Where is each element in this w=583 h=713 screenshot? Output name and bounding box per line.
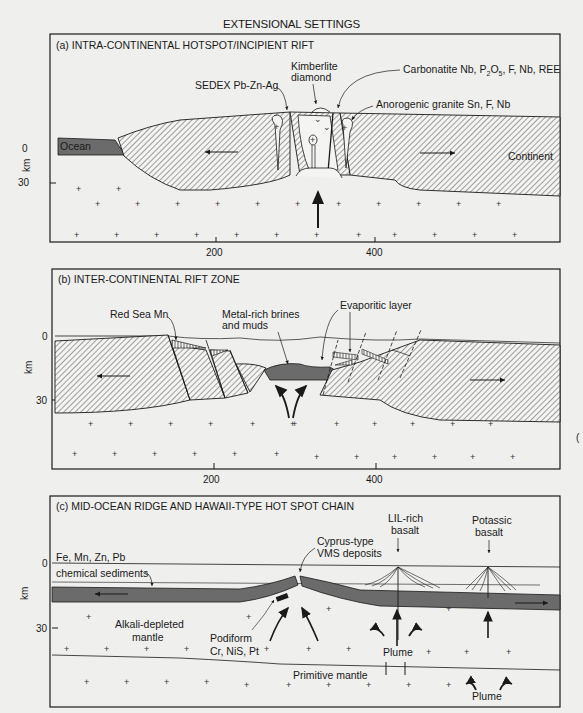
- granite-label: Anorogenic granite Sn, F, Nb: [376, 98, 510, 110]
- diagram-canvas: (a) INTRA-CONTINENTAL HOTSPOT/INCIPIENT …: [0, 0, 583, 713]
- y-tick-0-c: 0: [42, 558, 48, 569]
- primitive-mantle-boundary: [52, 655, 560, 670]
- svg-text:+: +: [512, 230, 517, 240]
- svg-text:+: +: [234, 230, 239, 240]
- svg-text:+: +: [208, 419, 213, 429]
- svg-text:+: +: [86, 612, 91, 622]
- svg-text:+: +: [392, 230, 397, 240]
- potassic-basalt-label-line1: Potassic: [472, 514, 512, 526]
- svg-text:⌄: ⌄: [323, 122, 331, 132]
- cyprus-label-line2: VMS deposits: [317, 547, 382, 559]
- svg-text:(: (: [576, 432, 580, 443]
- svg-text:+: +: [264, 644, 269, 654]
- svg-text:+: +: [426, 647, 431, 657]
- svg-text:+: +: [510, 452, 515, 462]
- svg-text:+: +: [168, 419, 173, 429]
- y-tick-30: 30: [18, 177, 30, 188]
- svg-text:+: +: [184, 644, 189, 654]
- ocean-label: Ocean: [60, 140, 91, 152]
- svg-text:+: +: [392, 452, 397, 462]
- mantle-pattern-c: ++++ ++++++++++ ++++++++++: [64, 604, 511, 690]
- svg-text:+: +: [286, 680, 291, 690]
- metals-label: Fe, Mn, Zn, Pb: [56, 551, 126, 563]
- svg-text:+: +: [192, 449, 197, 459]
- svg-text:+: +: [472, 230, 477, 240]
- podiform-label-line1: Podiform: [210, 632, 252, 644]
- continental-crust-left: [118, 112, 290, 190]
- svg-text:+: +: [446, 604, 451, 614]
- carbonatite-label: Carbonatite Nb, P2O5, F, Nb, REE: [403, 63, 560, 77]
- svg-text:⌄: ⌄: [314, 114, 322, 124]
- svg-text:+: +: [336, 199, 341, 209]
- rift-shoulder-left: [55, 335, 190, 413]
- svg-text:+: +: [274, 230, 279, 240]
- svg-text:+: +: [104, 644, 109, 654]
- cyprus-label-line1: Cyprus-type: [317, 535, 374, 547]
- svg-text:+: +: [232, 449, 237, 459]
- panel-a: (a) INTRA-CONTINENTAL HOTSPOT/INCIPIENT …: [18, 34, 560, 258]
- lil-basalt-label-line1: LIL-rich: [388, 512, 423, 524]
- red-sea-mn-label: Red Sea Mn: [110, 308, 169, 320]
- lil-volcano: [365, 567, 440, 588]
- svg-text:+: +: [76, 184, 81, 194]
- y-axis-label-b: km: [23, 361, 34, 374]
- y-axis-label: km: [21, 159, 32, 172]
- svg-text:+: +: [215, 199, 220, 209]
- mantle-pattern-b: ++++++ ++++++ ++++++ ++++++: [72, 419, 515, 462]
- svg-text:+: +: [204, 677, 209, 687]
- svg-text:+: +: [334, 419, 339, 429]
- svg-text:+: +: [410, 419, 415, 429]
- plume-label-1: Plume: [383, 646, 413, 658]
- oceanic-crust-right: [300, 576, 560, 610]
- svg-text:+: +: [432, 452, 437, 462]
- lil-basalt-label-line2: basalt: [391, 524, 419, 536]
- metal-rich-brines: [264, 364, 338, 380]
- primitive-mantle-label: Primitive mantle: [293, 669, 368, 681]
- svg-text:+: +: [314, 230, 319, 240]
- panel-c: (c) MID-OCEAN RIDGE AND HAWAII-TYPE HOT …: [19, 496, 560, 707]
- red-sea-mn-deposit: [172, 340, 206, 348]
- svg-text:+: +: [326, 680, 331, 690]
- y-tick-30-b: 30: [36, 395, 48, 406]
- svg-text:+: +: [464, 647, 469, 657]
- svg-text:+: +: [152, 449, 157, 459]
- mantle-pattern: ++ ++++++ +++++ ++++++ ++++++: [74, 184, 517, 240]
- svg-text:+: +: [95, 199, 100, 209]
- svg-text:+: +: [128, 419, 133, 429]
- rift-shoulder-right: [320, 340, 560, 422]
- svg-text:+: +: [326, 604, 331, 614]
- podiform-body: [276, 593, 289, 602]
- svg-text:+: +: [470, 452, 475, 462]
- svg-text:+: +: [354, 452, 359, 462]
- evaporitic-layer: [333, 352, 358, 360]
- svg-text:+: +: [306, 644, 311, 654]
- x-tick-200-a: 200: [206, 247, 223, 258]
- svg-text:+: +: [64, 644, 69, 654]
- svg-text:+: +: [74, 230, 79, 240]
- evaporitic-layer-label: Evaporitic layer: [340, 299, 412, 311]
- svg-text:+: +: [164, 677, 169, 687]
- svg-text:+: +: [246, 612, 251, 622]
- svg-text:+: +: [496, 199, 501, 209]
- brines-label-line2: and muds: [222, 319, 268, 331]
- svg-text:+: +: [72, 449, 77, 459]
- panel-b-title: (b) INTER-CONTINENTAL RIFT ZONE: [58, 273, 240, 285]
- alkali-depleted-label-line2: mantle: [132, 631, 164, 643]
- sedex-label: SEDEX Pb-Zn-Ag: [195, 79, 279, 91]
- podiform-label-line2: Cr, NiS, Pt: [210, 645, 259, 657]
- y-axis-label-c: km: [19, 587, 30, 600]
- svg-text:+: +: [366, 680, 371, 690]
- svg-text:+: +: [446, 680, 451, 690]
- svg-text:+: +: [295, 199, 300, 209]
- svg-text:+: +: [456, 199, 461, 209]
- svg-text:+: +: [194, 230, 199, 240]
- sea-surface: [168, 336, 560, 343]
- upwelling-arrow-right: [293, 386, 306, 418]
- alkali-depleted-label-line1: Alkali-depleted: [115, 618, 184, 630]
- y-tick-0-b: 0: [42, 331, 48, 342]
- svg-text:+: +: [114, 230, 119, 240]
- svg-text:+: +: [346, 644, 351, 654]
- svg-text:+: +: [250, 419, 255, 429]
- y-tick-0: 0: [22, 143, 28, 154]
- svg-text:+: +: [144, 644, 149, 654]
